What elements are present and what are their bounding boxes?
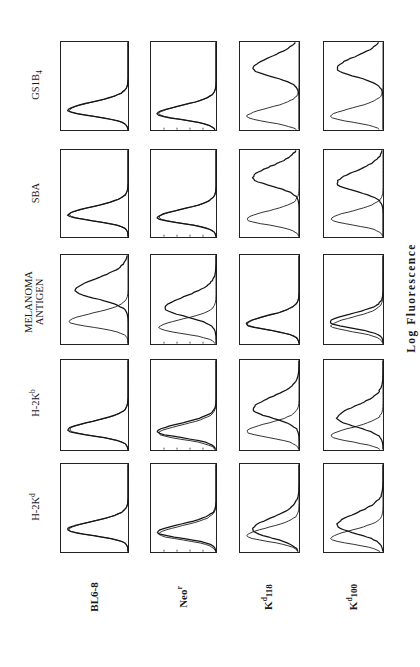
control-histogram [331,150,383,236]
row-label-h2kb: H-2Kb [30,373,44,433]
label-subscript: 4 [35,70,44,74]
histogram-panel [150,149,217,238]
histogram-panel [60,41,129,131]
label-superscript: d [345,597,354,601]
label-suffix: 118 [264,584,274,597]
histogram-plot [240,255,299,344]
row-label-h2kd: H-2Kd [30,477,44,537]
histogram-panel [150,463,217,553]
col-label-neor: Neor [177,574,191,620]
histogram-plot [324,150,383,237]
histogram-plot [151,360,216,450]
label-superscript: b [28,389,37,393]
stained-histogram [253,42,299,129]
label-text: K [347,602,359,611]
histogram-plot [151,464,216,552]
histogram-panel [60,463,129,553]
stained-histogram [330,255,383,343]
histogram-panel [150,359,217,451]
stained-histogram [336,361,383,450]
label-text: K [262,601,274,610]
control-histogram [69,464,128,551]
col-label-kd100: Kd100 [347,574,361,620]
label-superscript: d [260,597,269,601]
histogram-plot [151,42,216,130]
histogram-panel [323,359,384,451]
histogram-panel [239,463,300,553]
histogram-plot [61,150,128,237]
histogram-plot [61,464,128,552]
histogram-plot [324,464,383,552]
histogram-plot [324,360,383,450]
stained-histogram [165,255,216,343]
histogram-plot [240,42,299,130]
histogram-panel [323,41,384,131]
histogram-panel [239,254,300,345]
control-histogram [70,150,128,236]
histogram-panel [150,41,217,131]
label-text: BL6-8 [88,582,100,611]
label-text: Neo [177,590,189,608]
label-text: SBA [30,183,41,203]
histogram-plot [151,150,216,237]
label-text: H-2K [30,393,41,417]
histogram-panel [323,463,384,553]
histogram-plot [324,42,383,130]
label-superscript: d [28,493,37,497]
stained-histogram [253,464,299,551]
stained-histogram [337,464,383,551]
label-suffix: 100 [349,584,359,598]
histogram-plot [240,150,299,237]
control-histogram [159,255,216,343]
label-text: GS1B [30,74,41,100]
stained-histogram [246,255,299,343]
histogram-panel [239,41,300,131]
stained-histogram [157,150,216,236]
histogram-panel [150,254,217,345]
histogram-panel [323,149,384,238]
histogram-plot [61,255,128,344]
stained-histogram [68,464,128,551]
label-text-line1: MELANOMA [23,267,34,337]
histogram-plot [324,255,383,344]
label-superscript: r [175,586,184,589]
label-text-line2: ANTIGEN [34,267,45,337]
stained-histogram [157,464,216,551]
stained-histogram [75,255,128,343]
control-histogram [159,42,216,129]
row-label-melanoma-antigen: MELANOMA ANTIGEN [23,267,47,337]
axis-label-log-fluorescence: Log Fluorescence [405,223,420,373]
label-text: H-2K [30,497,41,521]
row-label-sba: SBA [30,163,44,223]
histogram-plot [61,42,128,130]
stained-histogram [68,150,128,236]
stained-histogram [157,42,216,129]
stained-histogram [68,42,128,129]
col-label-kd118: Kd118 [262,574,276,620]
histogram-panel [60,359,129,451]
control-histogram [159,360,216,449]
control-histogram [330,464,383,551]
histogram-panel [323,254,384,345]
histogram-plot [151,255,216,344]
histogram-panel [60,254,129,345]
col-label-bl6-8: BL6-8 [88,574,102,620]
stained-histogram [68,360,128,449]
row-label-gs1b4: GS1B4 [30,55,44,115]
histogram-panel [239,359,300,451]
stained-histogram [337,42,383,129]
histogram-panel [239,149,300,238]
histogram-panel [60,149,129,238]
histogram-plot [61,360,128,450]
control-histogram [330,255,383,343]
histogram-plot [240,360,299,450]
histogram-plot [240,464,299,552]
